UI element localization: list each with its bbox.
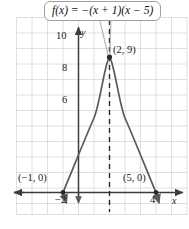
y-tick-label-8: 8	[62, 62, 67, 73]
y-axis-label: y	[81, 27, 85, 38]
root-left-label: (−1, 0)	[18, 172, 47, 183]
function-formula-callout: f(x) = −(x + 1)(x − 5)	[44, 1, 161, 21]
grid-lines	[17, 17, 188, 215]
y-tick-label-10: 10	[56, 30, 67, 41]
x-tick-label-4: 4	[150, 194, 155, 205]
x-axis-label: x	[172, 195, 176, 206]
graph-canvas	[0, 0, 189, 229]
root-right-label: (5, 0)	[123, 172, 146, 183]
parabola-figure: f(x) = −(x + 1)(x − 5) 10 8 6 −2 4 y x (…	[0, 0, 189, 229]
vertex-point-marker	[107, 54, 112, 59]
y-tick-label-6: 6	[62, 94, 67, 105]
vertex-label: (2, 9)	[113, 44, 136, 55]
x-tick-label-minus-2: −2	[55, 194, 66, 205]
